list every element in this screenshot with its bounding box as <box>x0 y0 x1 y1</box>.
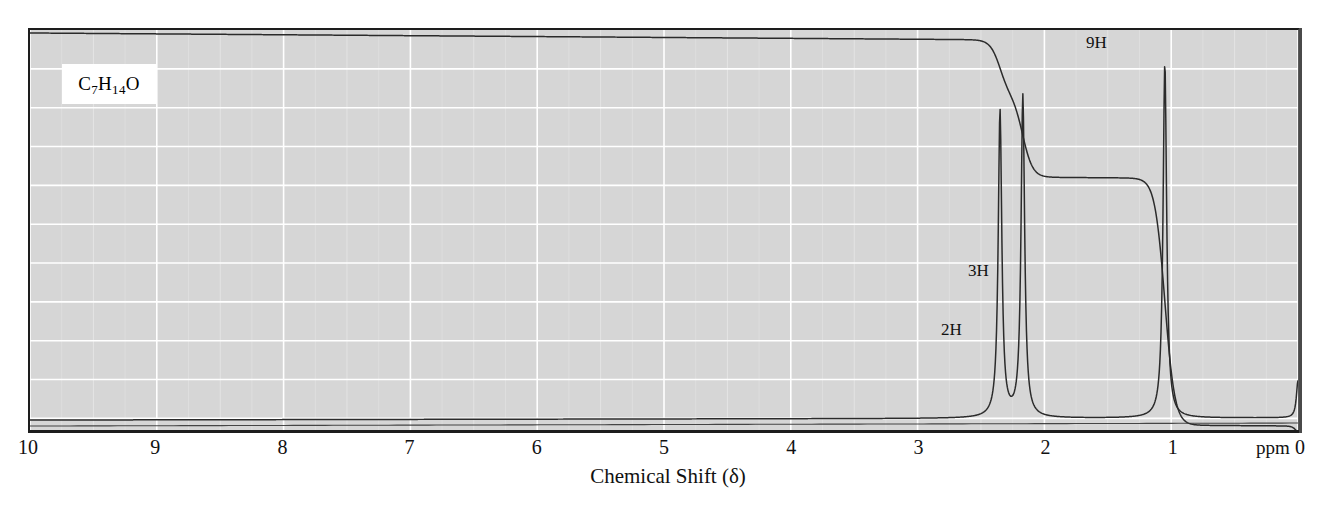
x-tick-1: 1 <box>1168 436 1178 459</box>
x-tick-3: 3 <box>913 436 923 459</box>
x-tick-5: 5 <box>659 436 669 459</box>
spectrum-trace-group <box>30 30 1298 432</box>
x-axis-line <box>28 430 1302 433</box>
formula-text: C7H14O <box>78 73 139 95</box>
x-tick-10: 10 <box>18 436 38 459</box>
x-tick-7: 7 <box>405 436 415 459</box>
integration-curve <box>30 33 1298 432</box>
x-tick-2: 2 <box>1041 436 1051 459</box>
x-axis-title: Chemical Shift (δ) <box>0 464 1336 489</box>
nmr-spectrum-figure: C7H14O 2H 3H 9H 109876543210 ppm Chemica… <box>0 0 1336 506</box>
integration-label-3h: 3H <box>968 261 989 281</box>
ppm-unit-label: ppm <box>1256 437 1290 459</box>
spectrum-plot-area <box>28 28 1300 432</box>
integration-label-2h: 2H <box>941 320 962 340</box>
x-tick-9: 9 <box>150 436 160 459</box>
plot-right-border <box>1299 28 1302 433</box>
x-tick-4: 4 <box>786 436 796 459</box>
absorption-trace <box>30 67 1298 420</box>
baseline-secondary <box>30 423 1298 426</box>
x-tick-0: 0 <box>1295 436 1305 459</box>
x-tick-8: 8 <box>277 436 287 459</box>
integration-label-9h: 9H <box>1086 33 1107 53</box>
molecular-formula-label: C7H14O <box>62 64 156 104</box>
x-tick-6: 6 <box>532 436 542 459</box>
